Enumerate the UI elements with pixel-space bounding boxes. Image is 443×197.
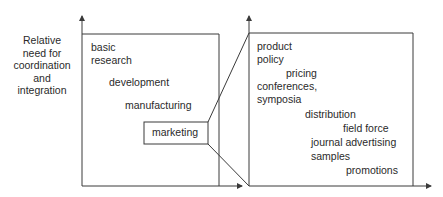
y-axis-label: Relative need for coordination and integ…: [2, 34, 82, 97]
connector-top: [208, 33, 249, 122]
left-item-development: development: [109, 76, 169, 89]
right-item-field-force: field force: [343, 122, 389, 135]
marketing-label: marketing: [152, 126, 198, 139]
y-axis-label-line: need for: [2, 47, 82, 60]
y-axis-label-line: coordination: [2, 59, 82, 72]
right-item-samples: samples: [311, 150, 350, 163]
right-item-promotions: promotions: [346, 164, 398, 177]
right-item-journal-advertising: journal advertising: [311, 136, 396, 149]
y-axis-label-line: Relative: [2, 34, 82, 47]
right-item-distribution: distribution: [305, 108, 356, 121]
y-axis-label-line: and: [2, 72, 82, 85]
right-item-policy: policy: [257, 53, 284, 66]
left-item-manufacturing: manufacturing: [125, 99, 192, 112]
right-item-product: product: [257, 40, 292, 53]
right-item-conferences: conferences,: [257, 80, 317, 93]
right-item-symposia: symposia: [257, 93, 301, 106]
left-item-basic: basic: [91, 41, 116, 54]
left-item-research: research: [91, 54, 132, 67]
connector-bottom: [208, 144, 249, 186]
right-item-pricing: pricing: [286, 67, 317, 80]
y-axis-label-line: integration: [2, 84, 82, 97]
